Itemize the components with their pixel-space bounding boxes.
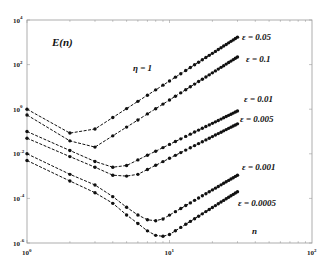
data-point-marker — [179, 137, 182, 140]
data-point-marker — [214, 133, 217, 136]
data-point-marker — [184, 204, 187, 207]
data-point-marker — [161, 102, 164, 105]
data-point-marker — [154, 164, 157, 167]
x-tick-label: 100 — [22, 248, 32, 258]
data-point-marker — [193, 199, 196, 202]
data-point-marker — [154, 88, 157, 91]
data-point-marker — [193, 217, 196, 220]
eta-annotation: η = 1 — [133, 63, 152, 73]
data-point-marker — [93, 145, 96, 148]
data-point-marker — [211, 52, 214, 55]
data-point-marker — [25, 152, 28, 155]
data-point-marker — [179, 226, 182, 229]
data-point-marker — [136, 213, 139, 216]
data-point-marker — [197, 80, 200, 83]
data-point-marker — [168, 143, 171, 146]
y-tick-label: 10-2 — [13, 149, 25, 159]
series-label: ε = 0.001 — [242, 162, 276, 172]
data-point-marker — [184, 148, 187, 151]
data-point-marker — [136, 173, 139, 176]
series-label: ε = 0.005 — [240, 114, 274, 124]
data-point-marker — [193, 144, 196, 147]
data-point-marker — [68, 173, 71, 176]
data-point-marker — [184, 135, 187, 138]
data-point-marker — [161, 83, 164, 86]
y-tick-label: 104 — [13, 15, 23, 25]
data-point-marker — [208, 190, 211, 193]
data-point-marker — [93, 166, 96, 169]
data-point-marker — [211, 71, 214, 74]
data-point-marker — [204, 192, 207, 195]
series-label: ε = 0.1 — [246, 54, 271, 64]
data-point-marker — [208, 136, 211, 139]
data-point-marker — [125, 213, 128, 216]
data-point-marker — [211, 135, 214, 138]
data-point-marker — [204, 210, 207, 213]
y-tick-label: 10-4 — [13, 193, 25, 203]
data-point-marker — [25, 130, 28, 133]
data-point-marker — [204, 75, 207, 78]
data-point-marker — [189, 220, 192, 223]
series-label: ε = 0.05 — [242, 32, 272, 42]
data-point-marker — [93, 191, 96, 194]
data-point-marker — [111, 202, 114, 205]
data-point-marker — [179, 207, 182, 210]
data-point-marker — [68, 155, 71, 158]
data-point-marker — [68, 139, 71, 142]
data-point-marker — [197, 128, 200, 131]
data-point-marker — [93, 160, 96, 163]
data-point-marker — [201, 127, 204, 130]
series-line — [27, 124, 238, 176]
data-point-marker — [236, 109, 239, 112]
data-point-marker — [25, 159, 28, 162]
data-point-marker — [168, 79, 171, 82]
series-labels: ε = 0.05ε = 0.1ε = 0.01ε = 0.005ε = 0.00… — [238, 32, 277, 208]
data-point-marker — [174, 229, 177, 232]
data-point-marker — [174, 140, 177, 143]
data-point-marker — [68, 179, 71, 182]
data-point-marker — [25, 108, 28, 111]
data-point-marker — [211, 188, 214, 191]
data-point-marker — [211, 122, 214, 125]
data-point-marker — [179, 151, 182, 154]
data-point-marker — [136, 118, 139, 121]
data-point-marker — [111, 195, 114, 198]
data-point-marker — [204, 138, 207, 141]
data-point-marker — [125, 174, 128, 177]
data-point-marker — [189, 146, 192, 149]
data-point-marker — [214, 204, 217, 207]
data-point-marker — [189, 85, 192, 88]
data-point-marker — [189, 201, 192, 204]
data-point-marker — [214, 69, 217, 72]
data-point-marker — [174, 75, 177, 78]
y-tick-label: 10-6 — [13, 238, 25, 248]
data-point-marker — [184, 223, 187, 226]
data-point-marker — [197, 196, 200, 199]
data-point-marker — [204, 125, 207, 128]
data-point-marker — [154, 107, 157, 110]
data-point-marker — [193, 82, 196, 85]
data-point-marker — [111, 134, 114, 137]
data-point-marker — [174, 95, 177, 98]
data-point-marker — [174, 154, 177, 157]
data-point-marker — [168, 157, 171, 160]
data-point-marker — [201, 194, 204, 197]
data-point-marker — [93, 127, 96, 130]
data-point-marker — [161, 160, 164, 163]
data-point-marker — [174, 210, 177, 213]
data-point-marker — [146, 218, 149, 221]
data-point-marker — [236, 122, 239, 125]
data-point-marker — [125, 125, 128, 128]
data-point-marker — [136, 222, 139, 225]
data-point-marker — [154, 234, 157, 237]
data-point-marker — [125, 107, 128, 110]
x-tick-label: 102 — [307, 248, 317, 258]
data-point-marker — [208, 54, 211, 57]
x-axis-label: n — [252, 226, 257, 236]
data-point-marker — [154, 149, 157, 152]
data-point-marker — [201, 140, 204, 143]
data-point-marker — [214, 50, 217, 53]
data-point-marker — [208, 123, 211, 126]
data-point-marker — [146, 154, 149, 157]
data-point-marker — [184, 69, 187, 72]
